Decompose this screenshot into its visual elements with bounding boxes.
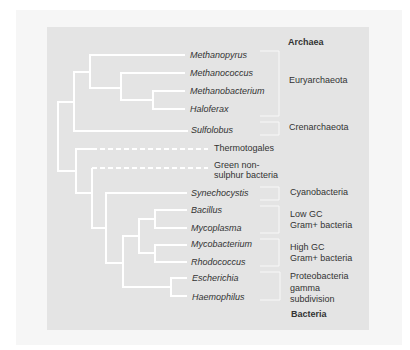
taxon-bacillus: Bacillus — [191, 205, 222, 215]
group-proteo-line3: subdivision — [290, 294, 335, 305]
group-lowgc-line2: Gram+ bacteria — [290, 220, 352, 231]
taxon-green-nonsulphur-line2: sulphur bacteria — [214, 170, 278, 180]
group-highgc-line2: Gram+ bacteria — [290, 253, 352, 264]
taxon-haloferax: Haloferax — [190, 104, 229, 114]
taxon-mycoplasma: Mycoplasma — [191, 223, 242, 233]
taxon-methanopyrus: Methanopyrus — [190, 50, 247, 60]
taxon-mycobacterium: Mycobacterium — [191, 239, 252, 249]
group-lowgc-line1: Low GC — [290, 209, 323, 220]
taxon-escherichia: Escherichia — [192, 273, 239, 283]
taxon-thermotogales: Thermotogales — [214, 143, 274, 153]
domain-archaea: Archaea — [288, 37, 324, 48]
group-highgc-line1: High GC — [290, 242, 325, 253]
taxon-haemophilus: Haemophilus — [192, 292, 245, 302]
group-crenarchaeota: Crenarchaeota — [289, 122, 349, 133]
group-proteo-line2: gamma — [290, 283, 320, 294]
taxon-rhodococcus: Rhodococcus — [191, 257, 246, 267]
group-proteo-line1: Proteobacteria — [290, 271, 349, 282]
group-cyanobacteria: Cyanobacteria — [290, 187, 348, 198]
taxon-synechocystis: Synechocystis — [191, 188, 249, 198]
taxon-methanococcus: Methanococcus — [190, 68, 253, 78]
taxon-sulfolobus: Sulfolobus — [191, 125, 233, 135]
taxon-methanobacterium: Methanobacterium — [190, 86, 265, 96]
taxon-green-nonsulphur-line1: Green non- — [214, 160, 260, 170]
group-euryarchaeota: Euryarchaeota — [289, 75, 348, 86]
domain-bacteria: Bacteria — [291, 309, 327, 320]
